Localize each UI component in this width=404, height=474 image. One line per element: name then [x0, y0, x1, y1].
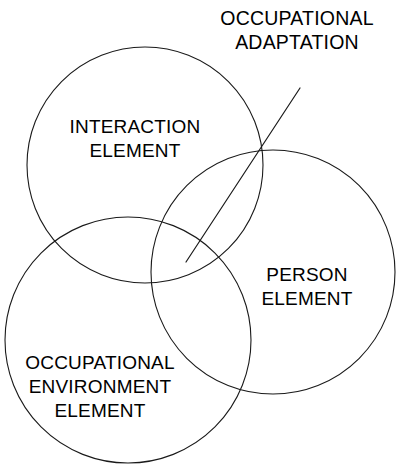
label-person-element-line-1: PERSON	[266, 264, 347, 285]
label-occupational-environment-element-line-3: ELEMENT	[54, 400, 145, 421]
title-line-2: ADAPTATION	[235, 31, 359, 53]
label-interaction-element-line-1: INTERACTION	[70, 116, 201, 137]
occupational-adaptation-leader-line	[186, 88, 300, 262]
label-occupational-environment-element-line-1: OCCUPATIONAL	[25, 352, 175, 373]
circle-occupational-environment-element[interactable]	[5, 217, 251, 463]
label-occupational-environment-element-line-2: ENVIRONMENT	[29, 376, 172, 397]
circle-interaction-element[interactable]	[27, 47, 263, 283]
title-line-1: OCCUPATIONAL	[220, 7, 373, 29]
label-person-element-line-2: ELEMENT	[261, 288, 352, 309]
venn-diagram-svg: OCCUPATIONAL ADAPTATION INTERACTION ELEM…	[0, 0, 404, 474]
label-interaction-element-line-2: ELEMENT	[89, 140, 180, 161]
venn-diagram-canvas: OCCUPATIONAL ADAPTATION INTERACTION ELEM…	[0, 0, 404, 474]
